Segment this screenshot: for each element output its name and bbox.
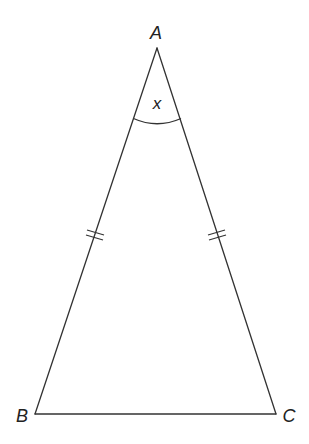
side-ac bbox=[157, 48, 276, 414]
vertex-label-a: A bbox=[150, 24, 162, 42]
side-ab bbox=[35, 48, 157, 414]
triangle-diagram bbox=[0, 0, 309, 444]
vertex-label-b: B bbox=[16, 407, 28, 425]
angle-label-x: x bbox=[153, 95, 162, 113]
angle-arc-a bbox=[134, 119, 182, 124]
vertex-label-c: C bbox=[283, 407, 296, 425]
